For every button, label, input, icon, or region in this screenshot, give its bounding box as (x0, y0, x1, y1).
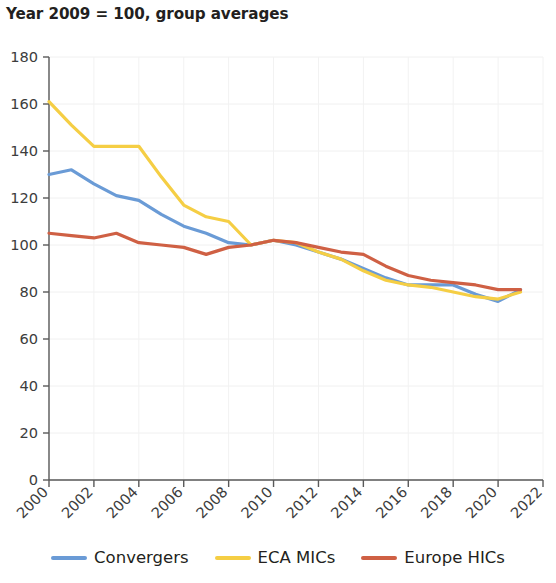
x-tick-label: 2000 (13, 483, 51, 521)
x-tick-label: 2018 (417, 483, 455, 521)
y-tick-label: 20 (19, 424, 38, 441)
y-axis-ticks: 020406080100120140160180 (10, 48, 49, 488)
y-tick-label: 140 (10, 142, 38, 159)
legend-item[interactable]: ECA MICs (215, 548, 336, 567)
y-tick-label: 60 (19, 330, 38, 347)
chart-figure: Year 2009 = 100, group averages 02040608… (0, 0, 556, 583)
legend-color-swatch (51, 556, 87, 560)
y-tick-label: 160 (10, 95, 38, 112)
legend-label: ECA MICs (258, 548, 336, 567)
legend-color-swatch (215, 556, 251, 560)
chart-legend: ConvergersECA MICsEurope HICs (0, 548, 556, 567)
y-tick-label: 100 (10, 236, 38, 253)
x-tick-label: 2006 (148, 483, 186, 521)
x-tick-label: 2020 (462, 483, 500, 521)
x-tick-label: 2004 (103, 483, 141, 521)
line-chart-plot: 020406080100120140160180 200020022004200… (0, 0, 556, 548)
x-tick-label: 2012 (282, 483, 320, 521)
y-tick-label: 120 (10, 189, 38, 206)
series-line-eca-mics (49, 102, 521, 299)
data-series (49, 102, 521, 302)
x-tick-label: 2008 (192, 483, 230, 521)
y-tick-label: 80 (19, 283, 38, 300)
y-tick-label: 40 (19, 377, 38, 394)
y-tick-label: 180 (10, 48, 38, 65)
x-tick-label: 2002 (58, 483, 96, 521)
gridlines (49, 57, 543, 480)
series-line-europe-hics (49, 233, 521, 289)
x-tick-label: 2016 (372, 483, 410, 521)
legend-item[interactable]: Europe HICs (361, 548, 505, 567)
x-tick-label: 2014 (327, 483, 365, 521)
x-tick-label: 2010 (237, 483, 275, 521)
legend-item[interactable]: Convergers (51, 548, 189, 567)
x-axis-ticks: 2000200220042006200820102012201420162018… (13, 480, 545, 521)
x-tick-label: 2022 (507, 483, 545, 521)
legend-label: Europe HICs (404, 548, 505, 567)
legend-color-swatch (361, 556, 397, 560)
axes (49, 57, 543, 480)
legend-label: Convergers (94, 548, 189, 567)
